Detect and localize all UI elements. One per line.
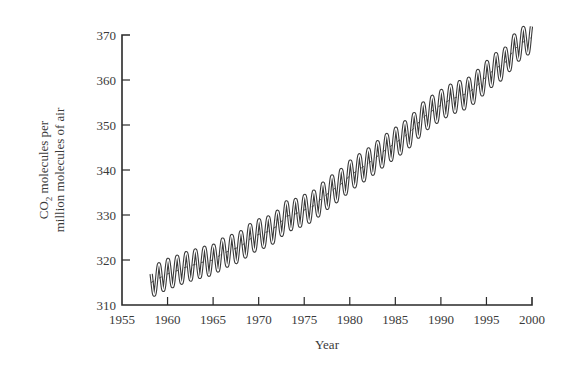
x-tick-label: 1965 [200, 312, 226, 327]
y-tick-label: 320 [97, 253, 117, 268]
y-tick-label: 360 [97, 73, 117, 88]
y-axis-title-rest: molecules per [36, 120, 51, 196]
x-tick-label: 1990 [428, 312, 454, 327]
y-tick-label: 330 [97, 208, 117, 223]
x-tick-label: 1985 [382, 312, 408, 327]
y-tick-label: 370 [97, 28, 117, 43]
co2-line-chart: 1955196019651970197519801985199019952000… [0, 0, 579, 377]
x-tick-label: 1980 [337, 312, 363, 327]
x-tick-label: 1995 [473, 312, 499, 327]
x-tick-label: 2000 [519, 312, 545, 327]
x-tick-label: 1960 [155, 312, 181, 327]
co2-data-series [151, 26, 531, 295]
y-tick-label: 340 [97, 163, 117, 178]
x-tick-label: 1970 [246, 312, 272, 327]
y-axis-title: CO2 molecules per million molecules of a… [36, 107, 67, 232]
y-tick-label: 350 [97, 118, 117, 133]
y-axis-title-co: CO [36, 201, 51, 219]
x-tick-label: 1975 [291, 312, 317, 327]
x-axis-ticks: 1955196019651970197519801985199019952000 [109, 297, 545, 327]
y-axis-ticks: 310320330340350360370 [97, 28, 131, 313]
y-axis-title-line2: million molecules of air [52, 107, 67, 232]
x-axis-title: Year [315, 337, 340, 352]
y-tick-label: 310 [97, 298, 117, 313]
x-tick-label: 1955 [109, 312, 135, 327]
